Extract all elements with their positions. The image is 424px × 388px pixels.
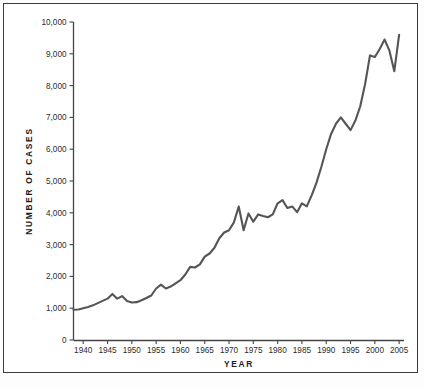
y-tick-label: 8,000 — [46, 82, 67, 91]
y-tick-label: 7,000 — [46, 113, 67, 122]
x-tick-label: 2000 — [366, 346, 385, 355]
x-tick-label: 2005 — [390, 346, 409, 355]
x-axis-title: YEAR — [224, 359, 254, 369]
x-tick-label: 1990 — [317, 346, 336, 355]
x-tick-label: 1945 — [98, 346, 117, 355]
y-tick-label: 5,000 — [46, 177, 67, 186]
x-tick-label: 1980 — [269, 346, 288, 355]
x-axis: 1940194519501955196019651970197519801985… — [74, 340, 409, 355]
x-axis-tick-labels: 1940194519501955196019651970197519801985… — [74, 346, 409, 355]
y-tick-label: 1,000 — [46, 304, 67, 313]
y-tick-label: 10,000 — [41, 18, 66, 27]
y-axis: 01,0002,0003,0004,0005,0006,0007,0008,00… — [41, 18, 73, 345]
y-tick-label: 3,000 — [46, 241, 67, 250]
y-tick-label: 9,000 — [46, 50, 67, 59]
y-axis-tick-labels: 01,0002,0003,0004,0005,0006,0007,0008,00… — [41, 18, 66, 345]
x-tick-label: 1995 — [341, 346, 360, 355]
x-tick-label: 1960 — [171, 346, 190, 355]
x-tick-label: 1950 — [123, 346, 142, 355]
y-axis-title: NUMBER OF CASES — [24, 127, 34, 234]
x-tick-label: 1970 — [220, 346, 239, 355]
figure-container: 01,0002,0003,0004,0005,0006,0007,0008,00… — [0, 0, 424, 388]
x-tick-label: 1965 — [196, 346, 215, 355]
y-tick-label: 2,000 — [46, 272, 67, 281]
y-tick-label: 6,000 — [46, 145, 67, 154]
data-series-line — [74, 35, 400, 310]
y-tick-label: 0 — [62, 336, 67, 345]
line-chart: 01,0002,0003,0004,0005,0006,0007,0008,00… — [0, 0, 424, 388]
x-tick-label: 1985 — [293, 346, 312, 355]
x-tick-label: 1975 — [244, 346, 263, 355]
y-tick-label: 4,000 — [46, 209, 67, 218]
x-tick-label: 1955 — [147, 346, 166, 355]
x-tick-label: 1940 — [74, 346, 93, 355]
